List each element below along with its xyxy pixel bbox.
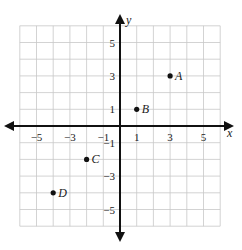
y-tick-label: −3 [103,170,115,182]
point-label-c: C [92,152,101,166]
y-axis-label: y [125,13,132,27]
point-label-a: A [174,69,183,83]
x-tick-label: −5 [31,131,43,143]
x-tick-labels: −5−3−1135 [31,131,207,143]
y-axis-down-arrow-icon [115,232,125,242]
y-axis-up-arrow-icon [115,14,125,24]
point-d [51,190,56,195]
y-tick-label: 1 [110,103,116,115]
y-tick-label: 3 [110,70,116,82]
point-label-d: D [57,186,67,200]
y-tick-label: −5 [103,204,115,216]
x-axis-left-arrow-icon [4,121,14,131]
x-tick-label: 5 [201,131,207,143]
point-a [168,73,173,78]
x-tick-label: −3 [64,131,76,143]
x-tick-label: 3 [167,131,173,143]
point-b [134,107,139,112]
x-tick-label: 1 [134,131,140,143]
point-label-b: B [142,102,150,116]
point-c [84,157,89,162]
y-tick-label: −1 [103,137,115,149]
x-axis-label: x [226,126,233,140]
y-tick-label: 5 [110,37,116,49]
coordinate-plane: x y −5−3−1135 531−1−3−5 ABCD [0,0,242,250]
